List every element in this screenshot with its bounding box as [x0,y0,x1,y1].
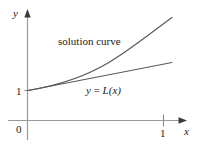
y-axis-arrow-icon [24,9,30,18]
solution-curve-path [28,18,172,91]
linearization-label-equals: = [91,84,103,96]
origin-label: 0 [16,124,22,135]
figure-canvas: y x 1 1 0 solution curve y = L(x) [0,0,198,150]
x-axis-tick-label-1: 1 [160,128,166,139]
plot-svg [0,0,198,150]
y-axis-tick-label-1: 1 [16,86,22,97]
linearization-label-L: L(x) [103,84,121,96]
solution-curve-label: solution curve [58,36,121,47]
x-axis-arrow-icon [179,117,188,123]
y-axis-label: y [13,8,18,19]
x-axis-label: x [184,126,189,137]
linearization-label: y = L(x) [86,85,121,96]
